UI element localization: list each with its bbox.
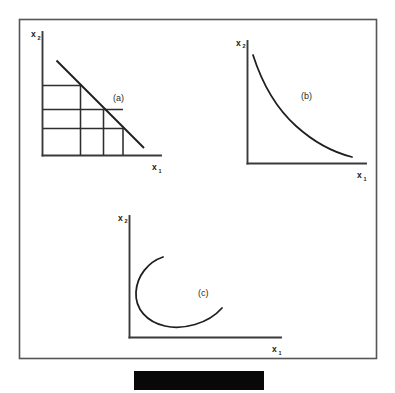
figure-canvas: x 2 x 1 (a) x 2 [0, 0, 395, 393]
panel-c-x-axis-label-subscript: 1 [279, 350, 282, 356]
panel-b-x-axis-label: x 1 [357, 170, 367, 182]
panel-c-y-axis-label-subscript: 2 [125, 218, 128, 224]
panel-a-x-axis-label-base: x [152, 162, 157, 172]
panel-a-tag: (a) [113, 93, 124, 103]
figure-outer-border [20, 20, 377, 359]
panel-c-y-axis-label: x 2 [118, 213, 128, 225]
panel-a-x-axis-label: x 1 [152, 162, 162, 174]
panel-c-backward-bending-curve [136, 257, 222, 327]
panel-a-isocost-line [57, 61, 145, 149]
panel-b-y-axis-label: x 2 [236, 38, 246, 50]
figure-container: x 2 x 1 (a) x 2 [0, 0, 395, 393]
panel-c-tag: (c) [198, 288, 209, 298]
panel-a-y-axis-label-base: x [31, 29, 36, 39]
panel-c-x-axis-label: x 1 [272, 344, 282, 356]
panel-b-y-axis-label-base: x [236, 38, 241, 48]
panel-a-y-axis-label: x 2 [31, 29, 41, 41]
panel-c: x 2 x 1 (c) [118, 213, 282, 356]
panel-b-y-axis-label-subscript: 2 [243, 43, 246, 49]
panel-b-x-axis-label-base: x [357, 170, 362, 180]
panel-a-y-axis-label-subscript: 2 [38, 35, 41, 41]
redaction-bar [134, 371, 264, 390]
panel-c-y-axis-label-base: x [118, 213, 123, 223]
panel-a-x-axis-label-subscript: 1 [159, 168, 162, 174]
panel-b-x-axis-label-subscript: 1 [364, 176, 367, 182]
panel-b-isoquant-curve [253, 55, 352, 157]
panel-a: x 2 x 1 (a) [31, 29, 162, 174]
panel-b: x 2 x 1 (b) [236, 38, 367, 182]
panel-c-x-axis-label-base: x [272, 344, 277, 354]
panel-b-tag: (b) [301, 91, 312, 101]
